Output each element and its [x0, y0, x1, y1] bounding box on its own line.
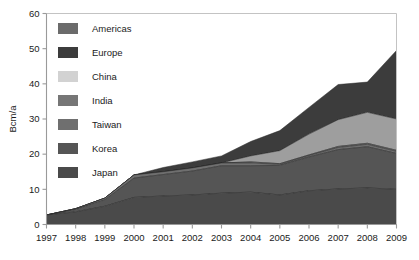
legend-swatch-icon	[58, 143, 78, 154]
legend-item-label: Europe	[92, 47, 123, 58]
y-tick-label: 30	[29, 113, 40, 124]
legend-item-label: India	[92, 95, 113, 106]
legend-item-taiwan[interactable]: Taiwan	[58, 112, 178, 136]
legend-item-americas[interactable]: Americas	[58, 16, 178, 40]
y-tick-label: 20	[29, 148, 40, 159]
x-tick-label: 1999	[94, 232, 115, 243]
x-tick-label: 1998	[65, 232, 86, 243]
legend-item-label: Americas	[92, 23, 132, 34]
legend-item-india[interactable]: India	[58, 88, 178, 112]
y-tick-label: 0	[34, 219, 39, 230]
x-tick-label: 1997	[36, 232, 57, 243]
legend-item-label: China	[92, 71, 117, 82]
x-tick-label: 2006	[298, 232, 319, 243]
legend-item-japan[interactable]: Japan	[58, 160, 178, 184]
legend-item-europe[interactable]: Europe	[58, 40, 178, 64]
y-tick-labels: 0102030405060	[29, 8, 40, 230]
y-tick-label: 40	[29, 78, 40, 89]
legend-swatch-icon	[58, 95, 78, 106]
legend-swatch-icon	[58, 167, 78, 178]
chart-legend: AmericasEuropeChinaIndiaTaiwanKoreaJapan	[58, 16, 178, 184]
legend-item-china[interactable]: China	[58, 64, 178, 88]
chart-container: 0102030405060 19971998199920002001200220…	[0, 0, 419, 260]
x-tick-label: 2002	[182, 232, 203, 243]
legend-item-korea[interactable]: Korea	[58, 136, 178, 160]
x-tick-label: 2007	[328, 232, 349, 243]
x-tick-labels: 1997199819992000200120022003200420052006…	[36, 232, 407, 243]
x-tick-label: 2000	[123, 232, 144, 243]
legend-swatch-icon	[58, 47, 78, 58]
legend-swatch-icon	[58, 23, 78, 34]
legend-item-label: Japan	[92, 167, 118, 178]
x-tick-label: 2004	[240, 232, 261, 243]
x-tick-label: 2001	[153, 232, 174, 243]
x-tick-label: 2005	[269, 232, 290, 243]
y-tick-label: 60	[29, 8, 40, 19]
legend-swatch-icon	[58, 119, 78, 130]
y-axis-title-label: Bcm/a	[7, 105, 18, 133]
x-tick-label: 2009	[386, 232, 407, 243]
legend-swatch-icon	[58, 71, 78, 82]
y-axis-title: Bcm/a	[7, 105, 18, 133]
x-tick-label: 2003	[211, 232, 232, 243]
y-tick-label: 50	[29, 43, 40, 54]
x-tick-label: 2008	[357, 232, 378, 243]
y-tick-label: 10	[29, 184, 40, 195]
legend-item-label: Taiwan	[92, 119, 122, 130]
legend-item-label: Korea	[92, 143, 117, 154]
